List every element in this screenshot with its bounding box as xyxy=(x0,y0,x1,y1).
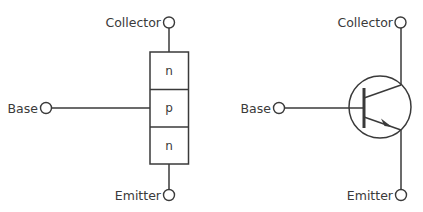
base-terminal xyxy=(274,103,285,114)
collector-terminal xyxy=(164,17,175,28)
layer-base-p: p xyxy=(165,101,173,115)
transistor-envelope xyxy=(349,76,411,138)
base-label: Base xyxy=(241,101,272,116)
emitter-label: Emitter xyxy=(347,188,394,203)
npn-layer-structure: Collector n p n Base Emitter xyxy=(8,15,189,203)
base-label: Base xyxy=(8,101,39,116)
layer-collector-n: n xyxy=(165,64,173,78)
emitter-terminal xyxy=(164,190,175,201)
collector-terminal xyxy=(395,17,406,28)
base-terminal xyxy=(41,103,52,114)
emitter-label: Emitter xyxy=(115,188,162,203)
emitter-terminal xyxy=(396,190,407,201)
layer-emitter-n: n xyxy=(165,139,173,153)
emitter-junction xyxy=(364,117,401,130)
collector-label: Collector xyxy=(337,15,393,30)
collector-junction xyxy=(364,85,401,98)
bjt-diagram: Collector n p n Base Emitter Collector B… xyxy=(0,0,423,212)
npn-transistor-symbol: Collector Base Emitter xyxy=(241,15,411,203)
collector-label: Collector xyxy=(105,15,161,30)
